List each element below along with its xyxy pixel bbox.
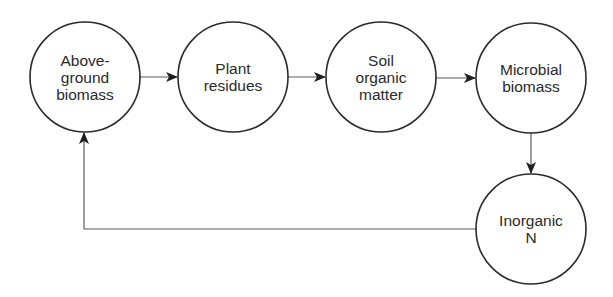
edges <box>84 77 531 229</box>
label-inorganic-n: Inorganic N <box>476 174 586 284</box>
label-microbial-biomass: Microbial biomass <box>476 23 586 133</box>
edge-inorganic-n-to-aboveground <box>84 133 476 229</box>
label-aboveground-biomass: Above- ground biomass <box>30 22 140 132</box>
label-soil-organic-matter: Soil organic matter <box>326 22 436 132</box>
label-plant-residues: Plant residues <box>178 22 288 132</box>
